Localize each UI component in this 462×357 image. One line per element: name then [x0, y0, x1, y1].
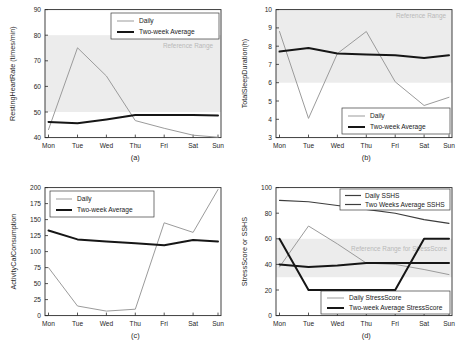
y-tick-d-2: 40: [265, 261, 273, 268]
y-tick-d-1: 20: [265, 287, 273, 294]
legend-d-label-daily-stress: Daily StressScore: [349, 294, 402, 302]
legend-d-label-avg-sshs: Two Weeks Average SSHS: [365, 201, 445, 209]
y-tick-d-0: 0: [268, 312, 272, 319]
x-tick-d-2: Wed: [331, 320, 345, 327]
y-tick-d-4: 80: [265, 210, 273, 217]
caption-b: (b): [362, 153, 371, 162]
y-tick-b-0: 3: [268, 134, 272, 141]
y-axis-label-c: ActivityCalConsumption: [9, 214, 18, 290]
x-axis-ticks-a: Mon Tue Wed Thu Fri Sat Sun: [42, 135, 224, 149]
chart-panel-d: 100 80 60 40 20 0 Mon Tue Wed Thu Fri: [231, 178, 462, 356]
y-tick-c-2: 50: [34, 280, 42, 287]
legend-b-label-daily: Daily: [370, 112, 385, 120]
x-tick-c-4: Fri: [160, 320, 168, 327]
y-tick-b-1: 4: [268, 116, 272, 123]
y-axis-label-b: TotalSleepDuration(h): [240, 39, 249, 109]
figure-four-panel-health-charts: 90 80 70 60 50 40 Mon Tue Wed Thu F: [0, 0, 462, 357]
y-tick-a-3: 70: [34, 57, 42, 64]
y-tick-b-2: 5: [268, 98, 272, 105]
panel-a-svg: 90 80 70 60 50 40 Mon Tue Wed Thu F: [0, 0, 231, 178]
y-tick-a-0: 40: [34, 134, 42, 141]
y-axis-label-d: StressScore or SSHS: [240, 217, 249, 286]
y-axis-label-a: RestingHeartRate (times/min): [8, 26, 17, 121]
x-tick-c-6: Sun: [212, 320, 224, 327]
panel-c-svg: 200 175 150 125 100 75 50 25 0 Mon Tue: [0, 178, 231, 357]
caption-d: (d): [362, 331, 371, 340]
series-line-a-average: [49, 115, 219, 123]
x-tick-b-2: Wed: [331, 142, 345, 149]
x-tick-a-2: Wed: [100, 142, 114, 149]
y-tick-c-8: 200: [30, 184, 41, 191]
y-tick-c-7: 175: [30, 200, 41, 207]
x-tick-a-1: Tue: [72, 142, 83, 149]
x-tick-a-0: Mon: [42, 142, 55, 149]
legend-a: Daily Two-week Average: [111, 13, 219, 39]
y-tick-b-5: 8: [268, 43, 272, 50]
legend-a-label-average: Two-week Average: [139, 28, 195, 36]
y-tick-b-6: 9: [268, 24, 272, 31]
x-axis-ticks-c: Mon Tue Wed Thu Fri Sat Sun: [42, 313, 224, 327]
y-tick-d-3: 60: [265, 235, 273, 242]
panel-b-svg: 10 9 8 7 6 5 4 3 Mon Tue Wed Thu: [231, 0, 462, 178]
x-tick-c-2: Wed: [100, 320, 114, 327]
y-tick-b-7: 10: [265, 6, 273, 13]
legend-b: Daily Two-week Average: [342, 108, 450, 134]
y-tick-c-0: 0: [37, 312, 41, 319]
chart-panel-c: 200 175 150 125 100 75 50 25 0 Mon Tue: [0, 178, 231, 356]
y-tick-a-2: 60: [34, 83, 42, 90]
y-tick-a-1: 50: [34, 109, 42, 116]
legend-a-label-daily: Daily: [139, 17, 154, 25]
x-tick-d-5: Sat: [419, 320, 429, 327]
x-tick-b-4: Fri: [391, 142, 399, 149]
panel-d-svg: 100 80 60 40 20 0 Mon Tue Wed Thu Fri: [231, 178, 462, 357]
x-tick-b-5: Sat: [419, 142, 429, 149]
y-tick-c-4: 100: [30, 248, 41, 255]
reference-band-label-b: Reference Range: [396, 12, 447, 20]
y-tick-d-5: 100: [261, 184, 272, 191]
x-tick-b-6: Sun: [443, 142, 455, 149]
y-tick-c-6: 150: [30, 216, 41, 223]
y-tick-b-4: 7: [268, 61, 272, 68]
x-tick-d-1: Tue: [303, 320, 314, 327]
x-tick-d-4: Fri: [391, 320, 399, 327]
legend-d-top: Daily SSHS Two Weeks Average SSHS: [340, 189, 450, 210]
caption-a: (a): [131, 153, 140, 162]
y-tick-b-3: 6: [268, 79, 272, 86]
chart-panel-b: 10 9 8 7 6 5 4 3 Mon Tue Wed Thu: [231, 0, 462, 178]
legend-c-label-average: Two-week Average: [77, 206, 133, 214]
legend-c: Daily Two-week Average: [50, 191, 154, 217]
x-tick-c-5: Sat: [188, 320, 198, 327]
y-tick-c-5: 125: [30, 232, 41, 239]
chart-panel-a: 90 80 70 60 50 40 Mon Tue Wed Thu F: [0, 0, 231, 178]
legend-d-label-avg-stress: Two-week Average StressScore: [349, 304, 443, 312]
reference-band-label-a: Reference Range: [163, 42, 214, 50]
x-tick-a-4: Fri: [160, 142, 168, 149]
x-tick-d-0: Mon: [273, 320, 286, 327]
y-tick-a-5: 90: [34, 6, 42, 13]
x-tick-c-0: Mon: [42, 320, 55, 327]
x-tick-a-5: Sat: [188, 142, 198, 149]
legend-b-label-average: Two-week Average: [370, 123, 426, 131]
reference-band-label-d: Reference Range for StressScore: [351, 245, 447, 253]
x-tick-a-6: Sun: [212, 142, 224, 149]
caption-c: (c): [131, 331, 140, 340]
legend-d-label-daily-sshs: Daily SSHS: [365, 192, 400, 200]
x-tick-d-3: Thu: [361, 320, 373, 327]
x-tick-b-3: Thu: [361, 142, 373, 149]
x-tick-d-6: Sun: [443, 320, 455, 327]
x-tick-a-3: Thu: [130, 142, 142, 149]
x-tick-c-1: Tue: [72, 320, 83, 327]
legend-c-label-daily: Daily: [77, 195, 92, 203]
y-tick-c-1: 25: [34, 296, 42, 303]
x-tick-b-0: Mon: [273, 142, 286, 149]
x-axis-ticks-d: Mon Tue Wed Thu Fri Sat Sun: [273, 313, 455, 327]
legend-d-bottom: Daily StressScore Two-week Average Stres…: [321, 291, 450, 314]
y-tick-c-3: 75: [34, 264, 42, 271]
x-tick-b-1: Tue: [303, 142, 314, 149]
x-tick-c-3: Thu: [130, 320, 142, 327]
y-tick-a-4: 80: [34, 32, 42, 39]
reference-band-b: [276, 10, 452, 83]
x-axis-ticks-b: Mon Tue Wed Thu Fri Sat Sun: [273, 135, 455, 149]
